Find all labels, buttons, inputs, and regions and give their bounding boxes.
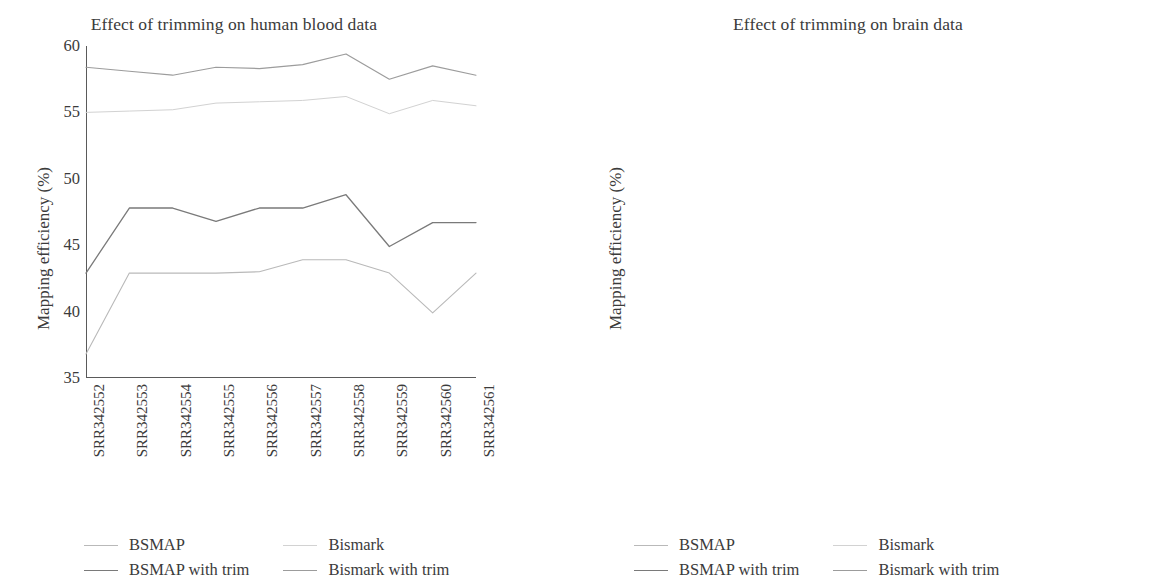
y-axis-label-brain: Mapping efficiency (%): [606, 167, 626, 330]
x-axis-tick-label: SRR342559: [395, 384, 410, 457]
legend-label: BSMAP: [129, 535, 185, 555]
legend-line-swatch: [84, 570, 118, 571]
legend-line-swatch: [833, 570, 867, 571]
x-axis-tick-label: SRR342558: [352, 384, 367, 457]
legend-item[interactable]: BSMAP with trim: [84, 560, 249, 580]
x-axis-tick-label: SRR342554: [179, 384, 194, 457]
legend-item[interactable]: BSMAP: [84, 535, 249, 555]
x-axis-tick-label: SRR342560: [439, 384, 454, 457]
chart-panel-brain: Effect of trimming on brain data Mapping…: [578, 0, 1155, 588]
legend-label: Bismark: [878, 535, 934, 555]
legend-item[interactable]: Bismark: [283, 535, 449, 555]
legend-label: Bismark with trim: [878, 560, 999, 580]
legend-label: BSMAP with trim: [679, 560, 799, 580]
legend-label: Bismark with trim: [328, 560, 449, 580]
y-axis-label-human-blood: Mapping efficiency (%): [34, 167, 54, 330]
legend-item[interactable]: BSMAP with trim: [634, 560, 799, 580]
legend-line-swatch: [833, 545, 867, 546]
y-axis-tick-label: 50: [64, 171, 81, 188]
y-axis-tick-label: 55: [64, 104, 81, 121]
legend-label: BSMAP: [679, 535, 735, 555]
series-line: [86, 195, 476, 273]
x-axis-tick-label: SRR342552: [92, 384, 107, 457]
y-axis-tick-label: 40: [64, 303, 81, 320]
legend-line-swatch: [634, 545, 668, 546]
x-axis-tick-label: SRR342555: [222, 384, 237, 457]
series-lines-human-blood: [86, 46, 476, 378]
x-axis-tick-label: SRR342557: [309, 384, 324, 457]
y-axis-tick-label: 60: [64, 38, 81, 55]
x-axis-tick-label: SRR342556: [265, 384, 280, 457]
x-axis-tick-label: SRR342553: [135, 384, 150, 457]
chart-panel-human-blood: Effect of trimming on human blood data M…: [0, 0, 570, 588]
x-axis-tick-label: SRR342561: [482, 384, 497, 457]
series-line: [86, 96, 476, 113]
legend-item[interactable]: Bismark with trim: [833, 560, 999, 580]
figure-container: Effect of trimming on human blood data M…: [0, 0, 1155, 588]
chart-title-human-blood: Effect of trimming on human blood data: [14, 14, 454, 35]
y-axis-tick-label: 45: [64, 237, 81, 254]
legend-line-swatch: [634, 570, 668, 571]
legend-item[interactable]: BSMAP: [634, 535, 799, 555]
series-line: [86, 54, 476, 79]
y-axis-tick-label: 35: [64, 370, 81, 387]
x-axis-ticks-human-blood: SRR342552SRR342553SRR342554SRR342555SRR3…: [86, 378, 476, 508]
legend-brain: BSMAPBismarkBSMAP with trimBismark with …: [634, 535, 999, 580]
legend-label: BSMAP with trim: [129, 560, 249, 580]
chart-title-brain: Effect of trimming on brain data: [598, 14, 1098, 35]
legend-line-swatch: [84, 545, 118, 546]
legend-item[interactable]: Bismark: [833, 535, 999, 555]
legend-line-swatch: [283, 545, 317, 546]
series-line: [86, 260, 476, 354]
legend-human-blood: BSMAPBismarkBSMAP with trimBismark with …: [84, 535, 449, 580]
plot-area-human-blood: SRR342552SRR342553SRR342554SRR342555SRR3…: [86, 46, 476, 378]
legend-item[interactable]: Bismark with trim: [283, 560, 449, 580]
legend-line-swatch: [283, 570, 317, 571]
legend-label: Bismark: [328, 535, 384, 555]
